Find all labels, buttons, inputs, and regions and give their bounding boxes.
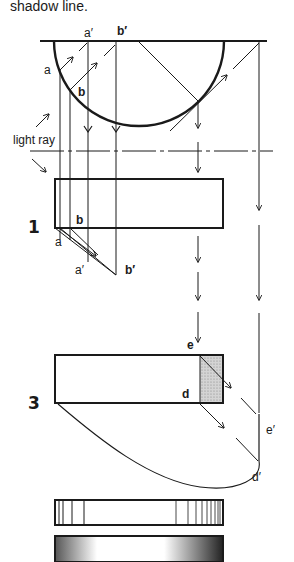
- light-ray-arrow-down: [32, 159, 46, 172]
- figure-1-number: 1: [28, 217, 40, 237]
- stipple-shading-bar: [55, 536, 223, 562]
- label-fig1-b: b: [76, 213, 83, 227]
- label-fig1-a: a: [55, 235, 62, 249]
- curved-shadow-outline: [58, 404, 259, 488]
- label-b-prime-top: b′: [117, 24, 127, 38]
- shaded-face: [200, 355, 223, 403]
- label-b-top: b: [78, 85, 85, 99]
- light-ray-arrow-up: [36, 114, 49, 127]
- label-fig3-d: d: [182, 387, 189, 401]
- plan-semicircle: [30, 41, 273, 275]
- label-a-prime-top: a′: [84, 26, 94, 40]
- label-a-top: a: [44, 63, 51, 77]
- label-fig3-e-prime: e′: [266, 423, 276, 437]
- line-shading-bar: [55, 500, 223, 525]
- label-fig1-a-prime: a′: [75, 263, 85, 277]
- label-fig3-d-prime: d′: [252, 470, 262, 484]
- label-fig1-b-prime: b′: [125, 263, 135, 277]
- shadow-diagram: a′ b′ a b light ray 1 b a a′ b′ 3 e d e′…: [0, 0, 294, 562]
- label-fig3-e: e: [187, 338, 194, 352]
- figure-3-number: 3: [28, 393, 40, 413]
- figure-3: [55, 312, 259, 488]
- label-light-ray: light ray: [13, 133, 55, 147]
- figure-1: [55, 179, 259, 300]
